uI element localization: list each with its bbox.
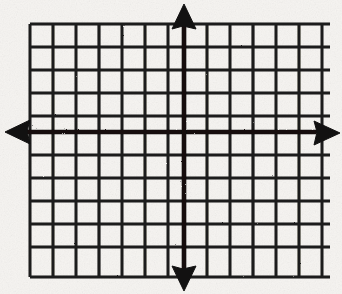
coordinate-plane-svg	[0, 0, 342, 294]
paper-grain-texture	[0, 0, 342, 294]
coordinate-grid-figure: Blank coordinate plane Hand-drawn square…	[0, 0, 342, 294]
